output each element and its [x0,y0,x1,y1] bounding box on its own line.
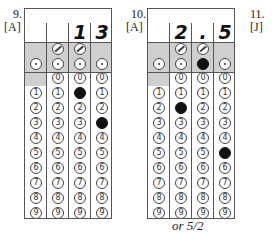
grid-in-question-9: 1312345678901234567890123456789012345678… [24,8,112,219]
decimal-point-bubble[interactable] [52,58,64,70]
digit-bubble-7[interactable]: 7 [30,177,42,189]
digit-bubble-9[interactable]: 9 [153,207,165,219]
digit-bubble-6[interactable]: 6 [197,162,209,174]
digit-bubble-0[interactable]: 0 [219,72,231,84]
digit-bubble-1[interactable]: 1 [219,87,231,99]
digit-bubble-3[interactable]: 3 [30,117,42,129]
question-9-label: 9. [A] [4,8,22,34]
decimal-point-bubble[interactable] [175,58,187,70]
digit-bubble-7[interactable]: 7 [74,177,86,189]
digit-bubble-6[interactable]: 6 [30,162,42,174]
digit-bubble-2[interactable]: 2 [175,102,187,114]
digit-bubble-4[interactable]: 4 [175,132,187,144]
column-divider [46,42,47,218]
digit-bubble-6[interactable]: 6 [52,162,64,174]
digit-bubble-4[interactable]: 4 [96,132,108,144]
digit-bubble-7[interactable]: 7 [197,177,209,189]
decimal-point-bubble[interactable] [219,58,231,70]
digit-bubble-4[interactable]: 4 [74,132,86,144]
digit-bubble-9[interactable]: 9 [30,207,42,219]
column-divider [191,42,192,218]
digit-bubble-5[interactable]: 5 [219,147,231,159]
digit-bubble-6[interactable]: 6 [175,162,187,174]
digit-bubble-9[interactable]: 9 [219,207,231,219]
decimal-point-bubble[interactable] [30,58,42,70]
digit-bubble-5[interactable]: 5 [175,147,187,159]
digit-bubble-4[interactable]: 4 [52,132,64,144]
digit-bubble-6[interactable]: 6 [96,162,108,174]
written-answer-char: . [192,21,214,43]
digit-bubble-1[interactable]: 1 [175,87,187,99]
digit-bubble-7[interactable]: 7 [96,177,108,189]
digit-bubble-4[interactable]: 4 [153,132,165,144]
digit-bubble-1[interactable]: 1 [52,87,64,99]
digit-bubble-2[interactable]: 2 [52,102,64,114]
grid-in-question-10: 2.51234567890123456789012345678901234567… [147,8,235,219]
digit-bubble-5[interactable]: 5 [30,147,42,159]
written-answer-char: 2 [170,21,192,43]
digit-bubble-2[interactable]: 2 [197,102,209,114]
fraction-bar-bubble[interactable] [175,43,187,55]
digit-bubble-3[interactable]: 3 [96,117,108,129]
digit-bubble-2[interactable]: 2 [74,102,86,114]
digit-bubble-6[interactable]: 6 [219,162,231,174]
column-divider [169,42,170,218]
digit-bubble-5[interactable]: 5 [197,147,209,159]
digit-bubble-2[interactable]: 2 [153,102,165,114]
digit-bubble-1[interactable]: 1 [197,87,209,99]
digit-bubble-2[interactable]: 2 [96,102,108,114]
digit-bubble-0[interactable]: 0 [96,72,108,84]
digit-bubble-3[interactable]: 3 [197,117,209,129]
digit-bubble-5[interactable]: 5 [74,147,86,159]
digit-bubble-5[interactable]: 5 [96,147,108,159]
digit-bubble-3[interactable]: 3 [175,117,187,129]
digit-bubble-3[interactable]: 3 [153,117,165,129]
digit-bubble-3[interactable]: 3 [219,117,231,129]
answer-code: [A] [126,21,146,34]
digit-bubble-6[interactable]: 6 [74,162,86,174]
digit-bubble-8[interactable]: 8 [52,192,64,204]
digit-bubble-5[interactable]: 5 [153,147,165,159]
digit-bubble-2[interactable]: 2 [219,102,231,114]
digit-bubble-8[interactable]: 8 [219,192,231,204]
digit-bubble-8[interactable]: 8 [30,192,42,204]
digit-bubble-7[interactable]: 7 [219,177,231,189]
digit-bubble-1[interactable]: 1 [96,87,108,99]
decimal-point-bubble[interactable] [96,58,108,70]
digit-bubble-0[interactable]: 0 [52,72,64,84]
column-divider [213,42,214,218]
digit-bubble-7[interactable]: 7 [175,177,187,189]
decimal-point-bubble[interactable] [197,58,209,70]
digit-bubble-2[interactable]: 2 [30,102,42,114]
digit-bubble-4[interactable]: 4 [30,132,42,144]
digit-bubble-1[interactable]: 1 [74,87,86,99]
digit-bubble-8[interactable]: 8 [175,192,187,204]
digit-bubble-8[interactable]: 8 [74,192,86,204]
decimal-point-bubble[interactable] [153,58,165,70]
digit-bubble-3[interactable]: 3 [74,117,86,129]
digit-bubble-9[interactable]: 9 [52,207,64,219]
digit-bubble-1[interactable]: 1 [30,87,42,99]
fraction-bar-bubble[interactable] [74,43,86,55]
digit-bubble-9[interactable]: 9 [74,207,86,219]
decimal-point-bubble[interactable] [74,58,86,70]
digit-bubble-9[interactable]: 9 [96,207,108,219]
digit-bubble-0[interactable]: 0 [74,72,86,84]
digit-bubble-6[interactable]: 6 [153,162,165,174]
digit-bubble-4[interactable]: 4 [219,132,231,144]
digit-bubble-8[interactable]: 8 [153,192,165,204]
digit-bubble-0[interactable]: 0 [175,72,187,84]
digit-bubble-8[interactable]: 8 [197,192,209,204]
fraction-bar-bubble[interactable] [197,43,209,55]
digit-bubble-7[interactable]: 7 [52,177,64,189]
question-10-label: 10. [A] [126,8,146,34]
column-divider-head [46,23,47,42]
digit-bubble-5[interactable]: 5 [52,147,64,159]
digit-bubble-1[interactable]: 1 [153,87,165,99]
digit-bubble-0[interactable]: 0 [197,72,209,84]
digit-bubble-4[interactable]: 4 [197,132,209,144]
digit-bubble-3[interactable]: 3 [52,117,64,129]
digit-bubble-8[interactable]: 8 [96,192,108,204]
digit-bubble-7[interactable]: 7 [153,177,165,189]
fraction-bar-bubble[interactable] [52,43,64,55]
